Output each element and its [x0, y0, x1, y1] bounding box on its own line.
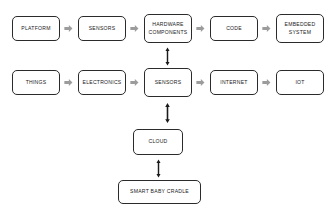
node-electronics[interactable]: ELECTRONICS	[78, 70, 126, 95]
node-sensors-bottom[interactable]: SENSORS	[144, 68, 192, 97]
arrow-platform-to-sensors	[64, 24, 73, 33]
node-embedded-system[interactable]: EMBEDDED SYSTEM	[276, 14, 324, 43]
node-label: IOT	[295, 79, 304, 86]
arrow-things-to-electronics	[64, 78, 73, 87]
arrow-hardware-to-code	[196, 24, 205, 33]
node-label: PLATFORM	[21, 25, 50, 32]
node-label: THINGS	[26, 79, 47, 86]
node-label: HARDWARE COMPONENTS	[148, 21, 187, 36]
connector-hardware-to-sensors-icon	[164, 47, 171, 66]
node-smart-baby-cradle[interactable]: SMART BABY CRADLE	[118, 180, 201, 204]
node-label: CLOUD	[148, 138, 167, 145]
node-internet[interactable]: INTERNET	[210, 70, 258, 95]
node-label: SENSORS	[89, 25, 116, 32]
node-platform[interactable]: PLATFORM	[12, 16, 60, 41]
node-label: SMART BABY CRADLE	[130, 188, 189, 195]
node-label: SENSORS	[155, 79, 182, 86]
block-diagram: PLATFORM SENSORS HARDWARE COMPONENTS COD…	[0, 0, 334, 220]
node-sensors-top[interactable]: SENSORS	[78, 16, 126, 41]
node-things[interactable]: THINGS	[12, 70, 60, 95]
node-label: ELECTRONICS	[83, 79, 122, 86]
connector-sensors-to-cloud-icon	[164, 101, 171, 125]
node-iot[interactable]: IOT	[276, 70, 324, 95]
node-cloud[interactable]: CLOUD	[133, 129, 183, 155]
arrow-sensors-to-internet	[196, 78, 205, 87]
node-hardware-components[interactable]: HARDWARE COMPONENTS	[144, 14, 192, 43]
node-label: CODE	[226, 25, 242, 32]
arrow-sensors-to-hardware	[130, 24, 139, 33]
node-label: EMBEDDED SYSTEM	[285, 21, 316, 36]
arrow-electronics-to-sensors	[130, 78, 139, 87]
connector-cloud-to-cradle-icon	[155, 159, 162, 178]
node-code[interactable]: CODE	[210, 16, 258, 41]
arrow-code-to-embedded-system	[262, 24, 271, 33]
node-label: INTERNET	[220, 79, 247, 86]
arrow-internet-to-iot	[262, 78, 271, 87]
